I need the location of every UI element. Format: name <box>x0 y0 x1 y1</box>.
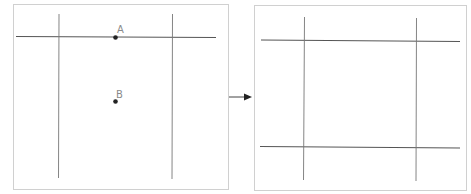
right-vertical-line-2 <box>416 18 417 181</box>
arrow-head-icon <box>244 94 252 101</box>
point-a-label: A <box>117 24 124 35</box>
transform-arrow <box>229 94 252 101</box>
right-panel <box>255 6 467 191</box>
left-vertical-line-2 <box>172 14 173 179</box>
left-panel: A B <box>14 5 229 190</box>
point-a-marker <box>113 35 118 40</box>
right-panel-frame <box>255 6 467 191</box>
diagram-canvas: A B <box>0 0 471 194</box>
point-b-label: B <box>116 89 123 100</box>
left-vertical-line-1 <box>59 14 60 178</box>
